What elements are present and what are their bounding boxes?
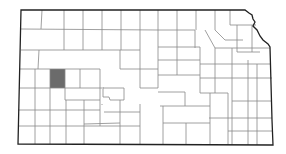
map-svg: [0, 0, 286, 154]
kansas-county-map: [0, 0, 286, 154]
highlighted-county: [50, 69, 65, 88]
